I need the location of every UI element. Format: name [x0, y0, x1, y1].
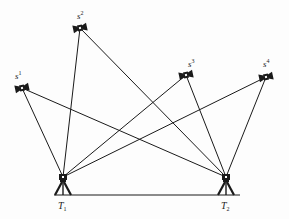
signal-line-s1-T2 [22, 88, 226, 177]
satellite-icon [14, 83, 29, 94]
receiver-label-T1: T1 [58, 200, 67, 212]
gps-baseline-diagram: s1s2s3s4T1T2 [0, 0, 289, 219]
tripod-receiver-icon [55, 174, 71, 195]
signal-line-s1-T1 [22, 88, 63, 177]
receivers [55, 174, 234, 195]
satellite-label-s1: s1 [15, 70, 22, 81]
satellite-label-s4: s4 [263, 58, 270, 69]
satellite-label-s3: s3 [188, 58, 195, 69]
signal-line-s4-T2 [226, 77, 266, 177]
satellite-icon [178, 70, 193, 81]
diagram-svg: s1s2s3s4T1T2 [0, 0, 289, 219]
signal-line-s4-T1 [63, 77, 266, 177]
satellites [14, 23, 273, 94]
tripod-receiver-icon [218, 174, 234, 195]
satellite-label-s2: s2 [77, 10, 84, 21]
satellite-icon [258, 72, 273, 83]
receiver-label-T2: T2 [221, 200, 230, 212]
signal-line-s2-T1 [63, 28, 80, 177]
signal-lines [22, 28, 266, 177]
